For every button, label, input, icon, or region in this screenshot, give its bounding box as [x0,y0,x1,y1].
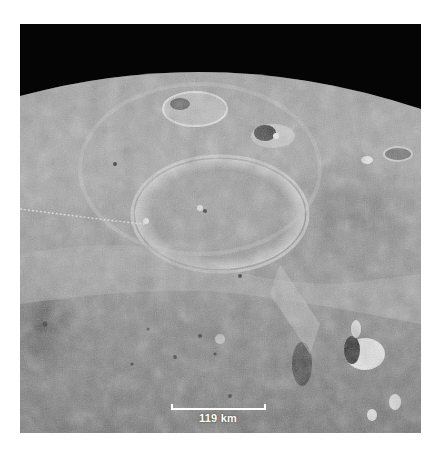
scale-bar [171,404,266,410]
scale-bar-label: 119 km [168,412,268,424]
moon-surface-illustration [20,24,421,433]
lunar-surface-photo: 119 km [20,24,421,433]
